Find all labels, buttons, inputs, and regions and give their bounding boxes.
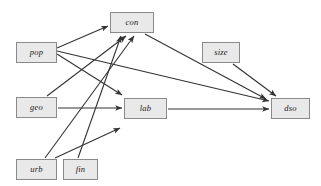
node-label-dso: dso <box>284 104 296 113</box>
node-label-con: con <box>126 18 139 27</box>
node-label-size: size <box>214 48 228 57</box>
edge-pop-to-con <box>57 26 108 48</box>
node-con[interactable]: con <box>110 12 154 33</box>
edge-group <box>45 26 276 158</box>
diagram-canvas: conpopsizegeolabdsourbfin <box>0 0 321 186</box>
node-fin[interactable]: fin <box>63 159 98 180</box>
edge-size-to-dso <box>233 64 276 96</box>
node-lab[interactable]: lab <box>124 98 167 119</box>
node-pop[interactable]: pop <box>16 42 57 63</box>
node-urb[interactable]: urb <box>16 159 57 180</box>
node-label-lab: lab <box>140 104 151 113</box>
node-dso[interactable]: dso <box>271 98 310 119</box>
node-label-urb: urb <box>30 165 42 174</box>
node-geo[interactable]: geo <box>16 97 57 118</box>
node-label-geo: geo <box>30 103 43 112</box>
edge-fin-to-con <box>78 36 121 158</box>
node-label-fin: fin <box>76 165 86 174</box>
node-size[interactable]: size <box>202 42 240 63</box>
edge-geo-to-con <box>47 36 126 96</box>
node-label-pop: pop <box>30 48 43 57</box>
